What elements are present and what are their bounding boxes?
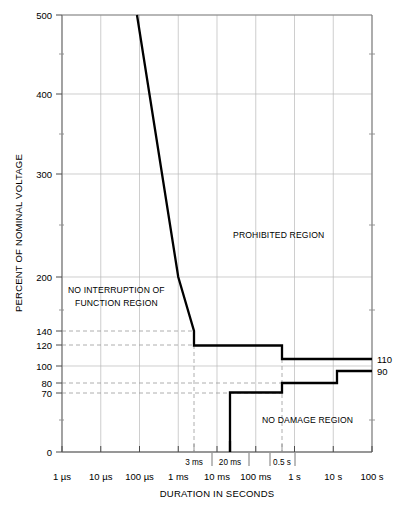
x-tick-label-1ms: 1 ms: [168, 471, 189, 482]
x-axis-annotation-labels: 3 ms 20 ms 0.5 s: [185, 458, 291, 467]
x-annotation-0p5s: 0.5 s: [273, 458, 291, 467]
itic-cbema-curve-chart: 500 400 300 200 140 120 100 80 70 0 1 µs…: [0, 0, 405, 505]
x-annotation-3ms: 3 ms: [185, 458, 203, 467]
x-tick-label-100s: 100 s: [360, 471, 383, 482]
x-tick-label-100ms: 100 ms: [240, 471, 271, 482]
region-label-no-damage: NO DAMAGE REGION: [262, 415, 353, 425]
x-annotation-20ms: 20 ms: [219, 458, 241, 467]
y-tick-label-400: 400: [36, 89, 52, 100]
y-axis-title: PERCENT OF NOMINAL VOLTAGE: [13, 154, 24, 312]
x-axis-title: DURATION IN SECONDS: [160, 488, 274, 499]
x-tick-label-10ms: 10 ms: [204, 471, 230, 482]
y-tick-label-0: 0: [47, 447, 52, 458]
y-tick-label-100: 100: [36, 361, 52, 372]
y-tick-label-500: 500: [36, 10, 52, 21]
x-tick-label-1us: 1 µs: [53, 471, 71, 482]
x-tick-label-10us: 10 µs: [89, 471, 113, 482]
x-tick-label-1s: 1 s: [288, 471, 301, 482]
region-label-prohibited: PROHIBITED REGION: [233, 230, 324, 240]
x-tick-label-10s: 10 s: [324, 471, 342, 482]
region-label-no-interruption-line1: NO INTERRUPTION OF: [68, 285, 165, 295]
y-tick-label-70: 70: [41, 388, 52, 399]
x-axis-tick-labels: 1 µs 10 µs 100 µs 1 ms 10 ms 100 ms 1 s …: [53, 471, 384, 482]
chart-canvas: 500 400 300 200 140 120 100 80 70 0 1 µs…: [0, 0, 405, 505]
end-label-90: 90: [377, 366, 388, 377]
x-tick-label-100us: 100 µs: [125, 471, 154, 482]
y-tick-label-200: 200: [36, 272, 52, 283]
y-tick-label-300: 300: [36, 169, 52, 180]
region-label-no-interruption-line2: FUNCTION REGION: [75, 298, 158, 308]
y-tick-label-120: 120: [36, 340, 52, 351]
y-tick-label-140: 140: [36, 326, 52, 337]
end-label-110: 110: [377, 354, 392, 365]
chart-background: [0, 0, 405, 505]
